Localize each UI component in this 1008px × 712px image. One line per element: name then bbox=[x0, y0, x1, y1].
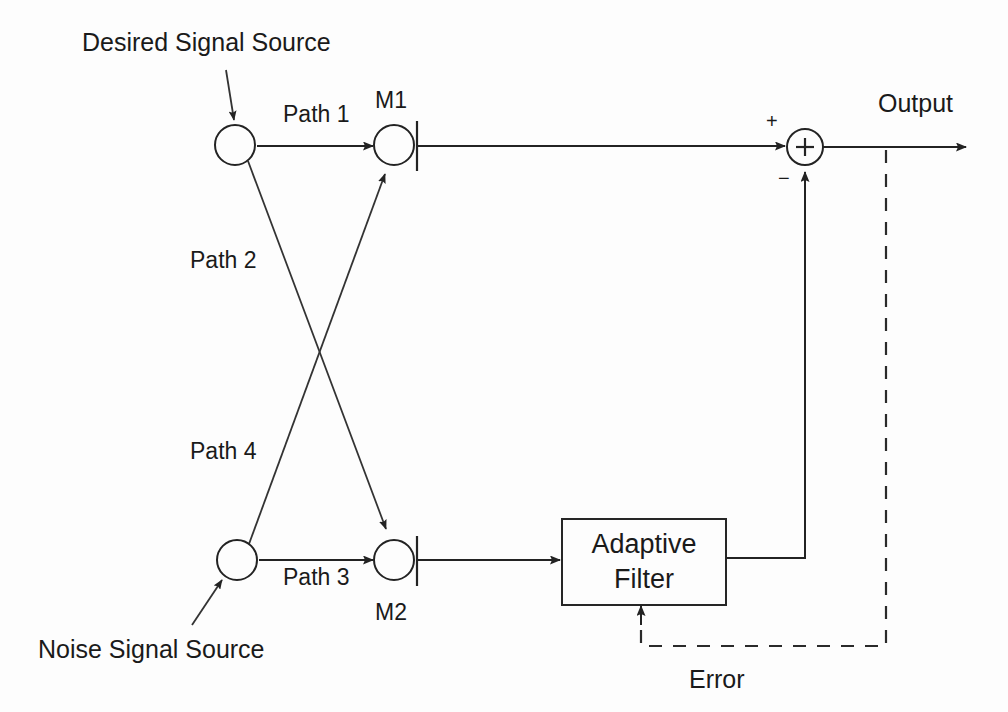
mic2-label: M2 bbox=[375, 599, 407, 625]
path3-label: Path 3 bbox=[283, 564, 350, 590]
mic1-label: M1 bbox=[375, 87, 407, 113]
adaptive-filter-label-line1: Adaptive bbox=[591, 529, 696, 559]
sum-positive-sign-label: + bbox=[766, 110, 778, 132]
desired-signal-source-label: Desired Signal Source bbox=[82, 28, 331, 56]
error-feedback-dashed-wire bbox=[641, 150, 886, 646]
noise-signal-source-label: Noise Signal Source bbox=[38, 635, 265, 663]
adaptive-filter-label-line2: Filter bbox=[614, 564, 674, 594]
mic2-node[interactable] bbox=[374, 540, 414, 580]
block-diagram-canvas: Desired Signal Source Path 1 M1 Path 2 P… bbox=[0, 0, 1008, 712]
error-label: Error bbox=[689, 665, 745, 693]
noise-source-pointer-arrow bbox=[192, 580, 222, 625]
desired-source-node[interactable] bbox=[215, 125, 255, 165]
desired-source-pointer-arrow bbox=[226, 70, 234, 120]
path2-arrow bbox=[248, 161, 386, 529]
path4-arrow bbox=[249, 174, 385, 544]
path4-label: Path 4 bbox=[190, 438, 257, 464]
noise-source-node[interactable] bbox=[217, 540, 257, 580]
path2-label: Path 2 bbox=[190, 247, 257, 273]
mic1-node[interactable] bbox=[374, 125, 414, 165]
sum-negative-sign-label: − bbox=[778, 167, 790, 189]
filter-to-sum-wire bbox=[726, 172, 805, 558]
output-label: Output bbox=[878, 89, 953, 117]
path1-label: Path 1 bbox=[283, 101, 350, 127]
